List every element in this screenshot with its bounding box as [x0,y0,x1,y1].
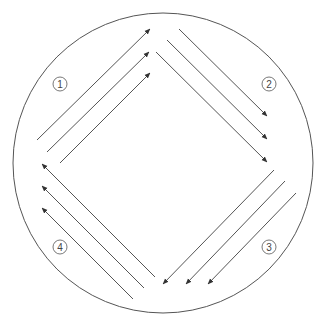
outer-circle [13,13,313,313]
arrow-icon [47,52,149,152]
arrow-icon [156,52,267,162]
arrow-icon [208,193,296,284]
arrow-group-1: 1 [37,29,150,163]
group-label: 4 [57,242,63,253]
arrow-icon [163,170,274,284]
arrow-icon [42,208,133,299]
arrow-group-2: 2 [156,29,276,162]
group-label: 2 [266,79,272,90]
arrow-icon [42,164,155,277]
arrow-icon [60,73,150,163]
arrow-group-4: 4 [42,164,155,299]
arrow-icon [179,29,267,116]
arrow-icon [167,40,267,139]
arrow-groups: 1234 [37,29,296,299]
group-label: 3 [266,242,272,253]
arrow-icon [42,186,144,288]
arrow-group-3: 3 [163,170,296,284]
group-label: 1 [57,79,63,90]
diagram-canvas: 1234 [0,0,323,327]
arrow-icon [37,29,150,140]
